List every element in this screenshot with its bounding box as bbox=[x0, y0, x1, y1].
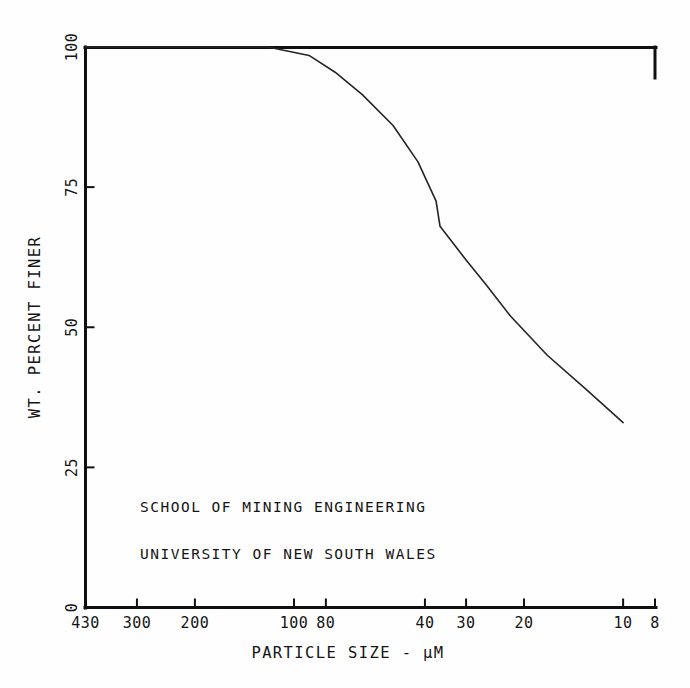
x-axis-tick-labels: 43030020010080403020108 bbox=[71, 614, 660, 632]
y-tick-label-75: 75 bbox=[63, 178, 81, 197]
annotation-university: UNIVERSITY OF NEW SOUTH WALES bbox=[140, 546, 437, 562]
y-tick-label-50: 50 bbox=[63, 318, 81, 337]
chart-canvas: 0255075100 43030020010080403020108 WT. P… bbox=[0, 0, 690, 688]
distribution-curve bbox=[86, 47, 624, 423]
x-tick-label-40: 40 bbox=[415, 614, 434, 632]
y-tick-label-0: 0 bbox=[63, 603, 81, 613]
x-tick-label-30: 30 bbox=[457, 614, 476, 632]
x-tick-label-80: 80 bbox=[316, 614, 335, 632]
x-tick-label-20: 20 bbox=[514, 614, 533, 632]
particle-size-distribution-chart: 0255075100 43030020010080403020108 WT. P… bbox=[0, 0, 690, 688]
x-tick-label-200: 200 bbox=[181, 614, 210, 632]
x-tick-label-10: 10 bbox=[614, 614, 633, 632]
y-tick-label-100: 100 bbox=[63, 33, 81, 62]
x-tick-label-430: 430 bbox=[71, 614, 100, 632]
y-axis-tick-labels: 0255075100 bbox=[63, 33, 81, 613]
annotation-school: SCHOOL OF MINING ENGINEERING bbox=[140, 499, 426, 515]
plot-axes bbox=[85, 47, 656, 608]
x-axis-title: PARTICLE SIZE - µM bbox=[251, 644, 444, 662]
y-axis-title: WT. PERCENT FINER bbox=[26, 236, 44, 418]
x-tick-label-100: 100 bbox=[280, 614, 309, 632]
x-tick-label-300: 300 bbox=[123, 614, 152, 632]
y-tick-label-25: 25 bbox=[63, 458, 81, 477]
x-tick-label-8: 8 bbox=[650, 614, 660, 632]
